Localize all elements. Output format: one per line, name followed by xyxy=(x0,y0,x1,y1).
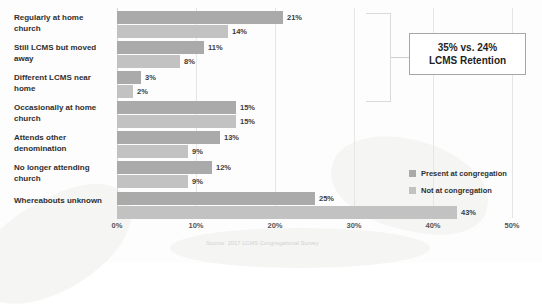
callout-connector-line xyxy=(391,57,409,58)
bar-notat xyxy=(117,175,188,188)
x-axis: 0% 10% 20% 30% 40% 50% xyxy=(117,219,515,235)
bar-present xyxy=(117,192,315,205)
source-note: Source: 2017 LCMS Congregational Survey xyxy=(206,240,319,246)
x-tick-label: 30% xyxy=(346,221,361,230)
bar-value-label: 11% xyxy=(208,41,223,54)
bar-notat xyxy=(117,25,228,38)
bar-value-label: 15% xyxy=(240,115,255,128)
bar-notat xyxy=(117,145,188,158)
bar-notat xyxy=(117,55,180,68)
bar-value-label: 8% xyxy=(184,55,195,68)
category-label: Different LCMS near home xyxy=(14,73,112,94)
bar-notat xyxy=(117,115,236,128)
bar-value-label: 14% xyxy=(232,25,247,38)
bar-present xyxy=(117,101,236,114)
bar-notat xyxy=(117,85,133,98)
category-axis-labels: Regularly at home church Still LCMS but … xyxy=(0,8,112,218)
legend-label: Present at congregation xyxy=(421,169,507,178)
category-label: No longer attending church xyxy=(14,163,112,184)
category-label: Whereabouts unknown xyxy=(14,196,112,207)
callout-bracket xyxy=(366,13,391,102)
chart-legend: Present at congregation Not at congregat… xyxy=(409,167,507,201)
bar-present xyxy=(117,41,204,54)
x-tick-label: 50% xyxy=(504,221,519,230)
category-label: Attends other denomination xyxy=(14,133,112,154)
bar-present xyxy=(117,11,283,24)
bar-present xyxy=(117,131,220,144)
bar-value-label: 9% xyxy=(192,145,203,158)
bar-notat xyxy=(117,206,457,219)
bar-value-label: 2% xyxy=(137,85,148,98)
category-label: Still LCMS but moved away xyxy=(14,43,112,64)
category-label: Regularly at home church xyxy=(14,13,112,34)
x-tick-label: 10% xyxy=(188,221,203,230)
gridline xyxy=(354,8,355,218)
bar-value-label: 25% xyxy=(319,192,334,205)
bar-present xyxy=(117,161,212,174)
legend-label: Not at congregation xyxy=(421,186,492,195)
legend-item-notat: Not at congregation xyxy=(409,184,507,197)
bar-value-label: 9% xyxy=(192,175,203,188)
legend-swatch-icon xyxy=(409,170,416,177)
x-tick-label: 40% xyxy=(425,221,440,230)
bar-value-label: 12% xyxy=(216,161,231,174)
category-label: Occasionally at home church xyxy=(14,103,112,124)
gridline xyxy=(275,8,276,218)
bar-value-label: 21% xyxy=(287,11,302,24)
bar-present xyxy=(117,71,141,84)
callout-line-1: 35% vs. 24% xyxy=(438,42,498,53)
x-tick-label: 20% xyxy=(267,221,282,230)
retention-callout-box: 35% vs. 24% LCMS Retention xyxy=(409,33,526,75)
x-tick-label: 0% xyxy=(112,221,123,230)
bar-value-label: 3% xyxy=(145,71,156,84)
legend-item-present: Present at congregation xyxy=(409,167,507,180)
bar-value-label: 43% xyxy=(461,206,476,219)
legend-swatch-icon xyxy=(409,187,416,194)
callout-line-2: LCMS Retention xyxy=(429,55,506,66)
bar-value-label: 13% xyxy=(224,131,239,144)
bar-value-label: 15% xyxy=(240,101,255,114)
